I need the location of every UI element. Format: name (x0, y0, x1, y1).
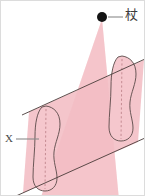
apex-label: 杖 (125, 8, 138, 21)
region-label-x: X (5, 133, 13, 144)
diagram-svg (0, 0, 145, 196)
figure-container: 杖 X (0, 0, 145, 196)
apex-point-dot (97, 12, 107, 22)
